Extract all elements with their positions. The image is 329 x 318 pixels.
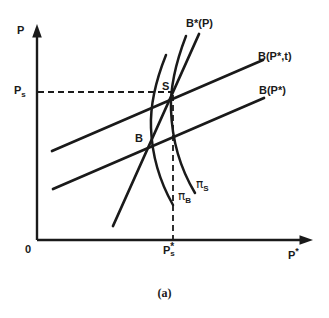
curve-label-pi-b: πB: [178, 190, 191, 205]
pi-s-subscript: S: [203, 184, 208, 193]
point-label-b: B: [135, 133, 143, 144]
curve-label-b-of-pstar-t: B(P*,t): [258, 51, 292, 62]
plot-canvas: [0, 0, 329, 318]
buyer-isoprofit-curve: [151, 55, 173, 205]
x-tick-base: P*s: [163, 244, 170, 256]
curve-label-b-of-pstar: B(P*): [259, 85, 286, 96]
point-label-s: S: [162, 81, 169, 92]
y-axis-label: P: [17, 25, 24, 36]
x-tick-base-text: P: [163, 244, 170, 256]
x-axis-arrowhead: [300, 235, 314, 245]
x-tick-subscript: s: [170, 250, 174, 258]
curve-label-pi-s: πS: [196, 178, 209, 193]
economic-diagram-figure: P P* 0 Ps P*s B*(P) B(P*,t) B(P*) S B πS…: [0, 0, 329, 318]
seller-isoprofit-curve: [171, 36, 195, 193]
y-axis-tick-label: Ps: [14, 85, 26, 99]
curve-label-b-star-of-p: B*(P): [186, 18, 213, 29]
pi-b-subscript: B: [185, 196, 191, 205]
figure-caption: (a): [0, 286, 329, 301]
x-axis-label: P*: [288, 247, 299, 261]
y-tick-subscript: s: [21, 90, 25, 99]
x-axis-tick-label: P*s: [163, 245, 170, 256]
origin-label: 0: [25, 244, 31, 255]
y-axis-arrowhead: [32, 24, 42, 38]
budget-line-with-tax: [52, 60, 263, 151]
x-axis-label-star: *: [295, 246, 299, 256]
